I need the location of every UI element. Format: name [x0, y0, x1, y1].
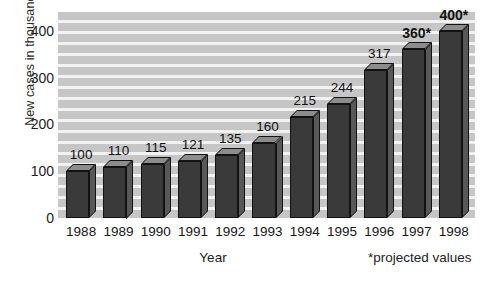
bar-front-face: [66, 171, 89, 218]
bar-value-label: 135: [219, 131, 242, 146]
bar-side-face: [89, 164, 96, 218]
x-axis-tick-labels: 1988198919901991199219931994199519961997…: [0, 224, 490, 244]
bar-1998: [439, 24, 462, 218]
x-tick-label: 1989: [103, 224, 133, 239]
x-tick-label: 1996: [364, 224, 394, 239]
bar-1989: [103, 160, 126, 219]
bar-value-label: 100: [70, 147, 93, 162]
bar-1996: [364, 63, 387, 218]
x-tick-label: 1988: [66, 224, 96, 239]
bar-front-face: [327, 104, 350, 218]
bar-1993: [252, 136, 275, 218]
bar-side-face: [164, 157, 171, 218]
bar-value-label: 244: [331, 80, 354, 95]
bar-front-face: [215, 155, 238, 218]
bar-front-face: [252, 143, 275, 218]
bar-front-face: [439, 31, 462, 218]
bar-chart: New cases in thousands 0100200300400 100…: [0, 0, 490, 282]
bar-value-label: 121: [182, 137, 205, 152]
x-tick-label: 1992: [215, 224, 245, 239]
x-tick-label: 1997: [402, 224, 432, 239]
x-tick-label: 1991: [178, 224, 208, 239]
x-tick-label: 1990: [141, 224, 171, 239]
bar-1991: [178, 154, 201, 218]
bar-side-face: [276, 136, 283, 218]
plot-area: [58, 12, 475, 218]
bar-front-face: [402, 49, 425, 218]
bar-front-face: [141, 164, 164, 218]
projected-values-footnote: *projected values: [368, 250, 472, 265]
bar-front-face: [290, 117, 313, 218]
x-tick-label: 1994: [290, 224, 320, 239]
y-tick-label: 100: [8, 163, 54, 179]
bar-value-label: 215: [294, 93, 317, 108]
x-tick-label: 1995: [327, 224, 357, 239]
x-axis-title: Year: [183, 250, 243, 265]
bar-side-face: [238, 148, 245, 218]
bar-side-face: [350, 97, 357, 218]
bar-1990: [141, 157, 164, 218]
bar-1995: [327, 97, 350, 218]
bar-1997: [402, 42, 425, 218]
bar-side-face: [462, 24, 469, 218]
bar-front-face: [364, 70, 387, 218]
x-tick-label: 1998: [439, 224, 469, 239]
bar-value-label: 317: [368, 46, 391, 61]
bar-value-label: 360*: [402, 25, 431, 41]
x-tick-label: 1993: [252, 224, 282, 239]
bar-side-face: [313, 110, 320, 218]
bar-1988: [66, 164, 89, 218]
bar-side-face: [126, 160, 133, 219]
bar-value-label: 400*: [439, 7, 468, 23]
bar-value-label: 110: [108, 143, 130, 158]
bar-value-label: 160: [256, 119, 279, 134]
y-tick-label: 200: [8, 116, 54, 132]
bar-1992: [215, 148, 238, 218]
bar-front-face: [178, 161, 201, 218]
bar-side-face: [425, 42, 432, 218]
y-tick-label: 400: [8, 23, 54, 39]
bar-value-label: 115: [145, 140, 167, 155]
bar-side-face: [201, 154, 208, 218]
bar-side-face: [387, 63, 394, 218]
bar-1994: [290, 110, 313, 218]
bar-front-face: [103, 167, 126, 219]
y-tick-label: 300: [8, 70, 54, 86]
